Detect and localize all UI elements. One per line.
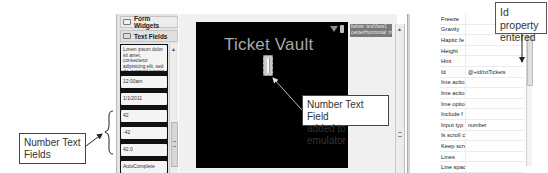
property-name: Freeze	[440, 14, 466, 24]
widget-list: Lorem ipsum dolor sit amet, consectetur …	[120, 44, 168, 173]
panel-divider[interactable]	[407, 14, 410, 173]
scrollbar-thumb[interactable]	[171, 122, 178, 167]
folder-closed-icon	[123, 19, 131, 25]
layout-hint-tooltip: below: textView1 centerHorizontal: true	[350, 24, 392, 37]
callout-id-property: Id property entered	[495, 2, 547, 34]
widget-multiline-text[interactable]: Lorem ipsum dolor sit amet, consectetur …	[121, 45, 167, 71]
callout-line: added to emulator	[307, 123, 384, 147]
property-row-input-type[interactable]: Input typnumber	[440, 120, 524, 131]
property-row[interactable]: Hint	[440, 56, 524, 67]
widget-time-field[interactable]: 12:00am	[121, 76, 167, 88]
widget-signed-number-field[interactable]: -42	[121, 127, 167, 139]
callout-number-field-added: Number Text Field added to emulator	[302, 95, 389, 126]
app-title[interactable]: Ticket Vault	[224, 35, 313, 55]
callout-number-text-fields: Number Text Fields	[19, 133, 86, 164]
property-name: Ime optio	[440, 99, 466, 109]
property-row[interactable]: Ime optio	[440, 99, 524, 110]
folder-open-icon	[123, 33, 131, 39]
tooltip-line: below: textView1	[351, 24, 391, 30]
category-form-widgets[interactable]: Form Widgets	[120, 16, 178, 28]
property-name: Is scroll c	[440, 131, 466, 141]
property-name: Height	[440, 46, 466, 56]
widget-decimal-number-field[interactable]: 42.0	[121, 144, 167, 156]
property-name: Include f	[440, 109, 466, 119]
scroll-up-arrow-icon[interactable]: ▴	[172, 45, 175, 52]
callout-line: Number Text Field	[307, 99, 384, 123]
number-text-field-selected[interactable]	[263, 55, 273, 76]
signal-icon	[330, 26, 338, 32]
battery-icon	[340, 25, 344, 33]
callout-line: Number Text	[24, 137, 81, 149]
widget-autocomplete-field[interactable]: AutoComplete	[121, 161, 167, 173]
callout-line: Id property	[500, 6, 542, 31]
property-row[interactable]: Line spac	[440, 162, 524, 173]
canvas-scrollbar[interactable]: ▴	[395, 24, 405, 173]
grip-icon	[398, 132, 402, 137]
property-row-id[interactable]: Id@+id/txtTickets	[440, 67, 524, 78]
property-name: Gravity	[440, 25, 466, 35]
category-text-fields[interactable]: Text Fields	[120, 30, 178, 42]
scroll-up-arrow-icon[interactable]: ▴	[398, 25, 401, 32]
widget-palette: Form Widgets Text Fields Lorem ipsum dol…	[116, 14, 178, 173]
property-name: Id	[440, 67, 466, 77]
category-label: Text Fields	[134, 33, 167, 40]
property-name: Lines	[440, 152, 466, 162]
property-name: Input typ	[440, 120, 466, 130]
property-row[interactable]: Keep scre	[440, 141, 524, 152]
category-label: Form Widgets	[134, 15, 177, 29]
property-name: Line spac	[440, 162, 466, 172]
property-value-id[interactable]: @+id/txtTickets	[466, 69, 506, 75]
property-name: Keep scre	[440, 141, 466, 151]
callout-line: Fields	[24, 149, 81, 161]
widget-number-field[interactable]: 42	[121, 110, 167, 122]
callout-line: entered	[500, 31, 542, 44]
property-name: Haptic fe	[440, 35, 466, 45]
property-name: Hint	[440, 56, 466, 66]
property-value-input-type[interactable]: number	[466, 122, 487, 128]
properties-scrollbar[interactable]	[526, 30, 532, 166]
property-name: Ime actio	[440, 88, 466, 98]
widget-date-field[interactable]: 1/1/2011	[121, 93, 167, 105]
property-row[interactable]: Lines	[440, 152, 524, 163]
palette-scrollbar[interactable]: ▴	[169, 44, 178, 173]
property-row[interactable]: Include f	[440, 109, 524, 120]
grip-icon	[173, 141, 176, 147]
property-row[interactable]: Is scroll c	[440, 131, 524, 142]
tooltip-line: centerHorizontal: true	[351, 30, 391, 36]
scrollbar-thumb[interactable]	[527, 36, 533, 86]
property-row[interactable]: Ime actio	[440, 88, 524, 99]
property-name: Ime actio	[440, 78, 466, 88]
property-row[interactable]: Ime actio	[440, 78, 524, 89]
property-row[interactable]: Height	[440, 46, 524, 57]
status-bar	[330, 25, 344, 33]
